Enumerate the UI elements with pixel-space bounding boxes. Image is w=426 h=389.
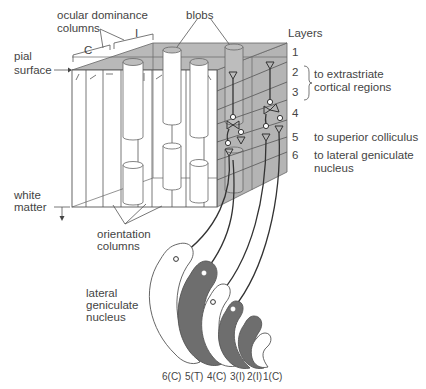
ocular-dominance-label: ocular dominance bbox=[57, 9, 148, 21]
contralateral-label: C bbox=[84, 44, 92, 56]
pial-surface-label: pial bbox=[14, 50, 32, 62]
layer-number-6: 6 bbox=[292, 149, 298, 161]
ocular-dominance-label-2: columns bbox=[57, 22, 100, 34]
layer-number-3: 3 bbox=[292, 86, 298, 98]
extrastriate-target-label: to extrastriate bbox=[314, 68, 384, 80]
lgn-label-2: geniculate bbox=[86, 299, 138, 311]
lgn-label: lateral bbox=[86, 287, 117, 299]
ipsilateral-label: I bbox=[135, 27, 138, 39]
cortex-block bbox=[72, 43, 287, 207]
superior-colliculus-target-label: to superior colliculus bbox=[314, 131, 418, 143]
lgn-layer-label-2: 2(I) bbox=[247, 371, 262, 382]
layer-number-1: 1 bbox=[292, 46, 298, 58]
orientation-columns-label: orientation bbox=[97, 228, 151, 240]
white-matter-label: white bbox=[13, 189, 41, 201]
layer-number-2: 2 bbox=[292, 66, 298, 78]
lgn-layer-label-6: 6(C) bbox=[162, 371, 181, 382]
pial-surface-label-2: surface bbox=[14, 64, 52, 76]
lgn-layer-label-4: 4(C) bbox=[207, 371, 226, 382]
lgn-layer-label-5: 5(T) bbox=[185, 371, 203, 382]
lateral-geniculate-nucleus bbox=[149, 243, 271, 368]
layer-number-4: 4 bbox=[292, 107, 299, 119]
lgn-target-label: to lateral geniculate bbox=[314, 149, 414, 161]
white-matter-label-2: matter bbox=[14, 201, 47, 213]
lgn-layer-label-1: 1(C) bbox=[263, 371, 282, 382]
lgn-label-3: nucleus bbox=[86, 311, 126, 323]
layers-title: Layers bbox=[288, 27, 323, 39]
layer-number-5: 5 bbox=[292, 131, 298, 143]
v1-diagram: ocular dominance columns C I blobs pial … bbox=[0, 0, 426, 389]
lgn-target-label-2: nucleus bbox=[314, 162, 354, 174]
blobs-label: blobs bbox=[186, 9, 214, 21]
lgn-layer-label-3: 3(I) bbox=[230, 371, 245, 382]
extrastriate-target-label-2: cortical regions bbox=[314, 81, 392, 93]
orientation-columns-label-2: columns bbox=[97, 240, 140, 252]
